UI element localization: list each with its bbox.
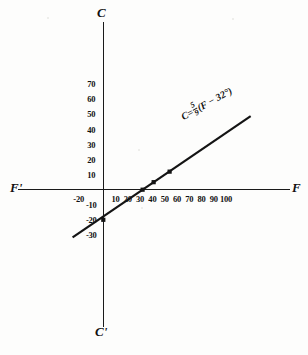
data-point-marker (101, 218, 105, 222)
data-line (73, 116, 251, 237)
plot-layer (0, 0, 308, 355)
data-point-marker (168, 170, 172, 174)
data-point-marker (140, 188, 144, 192)
figure-canvas: F' F C C' -20102030405060708090100 -30-2… (0, 0, 308, 355)
data-point-marker (152, 180, 156, 184)
